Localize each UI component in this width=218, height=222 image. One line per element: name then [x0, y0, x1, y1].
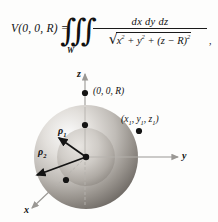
integral-formula: V(0, 0, R) = ∭ W dx dy dz √ x2 + y2 + (z… [0, 8, 218, 60]
point-x1-y1-z1-dot [136, 128, 142, 134]
triple-integral-sign: ∭ [60, 15, 91, 46]
origin-dot [83, 154, 89, 160]
fraction-numerator: dx dy dz [92, 16, 208, 28]
point-x1-y1-z1-label: (x1, y1, z1) [121, 114, 159, 126]
radicand: x2 + y2 + (z − R)2 [116, 32, 192, 46]
coordinate-sphere-diagram: z y x (0, 0, R) (x1, y1, z1) ρ1 ρ2 [0, 62, 218, 222]
point-0-0-R-dot [82, 90, 88, 96]
denom-y-exponent: 2 [142, 33, 145, 40]
integrand-fraction: dx dy dz √ x2 + y2 + (z − R)2 [92, 16, 208, 47]
denom-plus-1: + [127, 34, 134, 45]
rho-1-label: ρ1 [58, 125, 66, 138]
formula-trailing-comma: , [209, 35, 212, 46]
fraction-bar [93, 28, 207, 29]
radical-icon: √ [109, 31, 118, 47]
denom-plus-2: + ( [147, 34, 160, 45]
integral-region-subscript: W [67, 46, 74, 55]
fraction-denominator: √ x2 + y2 + (z − R)2 [109, 31, 192, 46]
px-mid1: , y [132, 114, 141, 124]
point-0-0-R-label: (0, 0, R) [93, 86, 124, 96]
figure-root: V(0, 0, R) = ∭ W dx dy dz √ x2 + y2 + (z… [0, 0, 218, 222]
px-close: ) [156, 114, 159, 124]
square-root-group: √ x2 + y2 + (z − R)2 [109, 32, 192, 46]
rho-1-subscript: 1 [63, 131, 66, 138]
denom-minus: − [167, 34, 174, 45]
denom-group-exponent: 2 [187, 33, 190, 40]
y-axis-label: y [182, 150, 186, 161]
z-axis-inner-dot [82, 122, 88, 128]
z-axis-label: z [77, 68, 81, 79]
denom-x-exponent: 2 [121, 33, 124, 40]
x-axis-label: x [24, 204, 29, 215]
rho-2-label: ρ2 [38, 146, 46, 159]
rho-2-subscript: 2 [43, 152, 46, 159]
denom-term-z: z [161, 34, 165, 45]
interior-sample-dot [63, 177, 69, 183]
